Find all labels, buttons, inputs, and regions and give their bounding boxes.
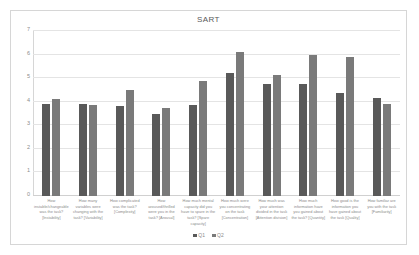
bar-group <box>70 31 107 196</box>
y-axis-tick-label: 4 <box>27 98 30 104</box>
bar-series-container <box>33 31 400 196</box>
bar-q1[interactable] <box>152 114 160 197</box>
x-axis-category-label: How familiar are you with the task [Fami… <box>363 198 400 226</box>
x-axis-category-label: How instable/changeable was the task? [I… <box>33 198 70 226</box>
y-axis-tick-label: 5 <box>27 74 30 80</box>
bar-q2[interactable] <box>162 108 170 196</box>
x-axis-category-label: How much information have you gained abo… <box>290 198 327 226</box>
bar-q2[interactable] <box>126 90 134 196</box>
bar-group <box>106 31 143 196</box>
bar-q2[interactable] <box>309 55 317 196</box>
bar-q1[interactable] <box>336 93 344 196</box>
x-axis-category-label: How many variables were changing with th… <box>70 198 107 226</box>
bar-q1[interactable] <box>373 98 381 196</box>
bar-q2[interactable] <box>346 57 354 196</box>
bar-q2[interactable] <box>52 99 60 196</box>
bar-group <box>363 31 400 196</box>
bar-q1[interactable] <box>226 73 234 196</box>
y-axis-tick-label: 2 <box>27 145 30 151</box>
bar-q1[interactable] <box>79 104 87 196</box>
bar-q1[interactable] <box>299 84 307 196</box>
legend-label: Q1 <box>198 233 205 238</box>
bar-group <box>217 31 254 196</box>
x-axis-category-label: How much was your attention divided in t… <box>253 198 290 226</box>
plot-area: 01234567 <box>33 31 400 196</box>
y-axis-tick-label: 1 <box>27 169 30 175</box>
bar-q2[interactable] <box>199 81 207 197</box>
y-axis-tick-label: 7 <box>27 27 30 33</box>
bar-q1[interactable] <box>189 105 197 196</box>
bar-q1[interactable] <box>263 84 271 196</box>
bar-group <box>290 31 327 196</box>
legend-item-q1[interactable]: Q1 <box>193 233 205 238</box>
y-axis-tick-label: 0 <box>27 192 30 198</box>
bar-q2[interactable] <box>236 52 244 196</box>
y-axis-tick-label: 3 <box>27 122 30 128</box>
bar-group <box>33 31 70 196</box>
chart-container: SART 01234567 How instable/changeable wa… <box>10 10 407 245</box>
legend-swatch <box>212 234 216 238</box>
legend-label: Q2 <box>217 233 224 238</box>
bar-group <box>143 31 180 196</box>
bar-q1[interactable] <box>42 104 50 196</box>
bar-q2[interactable] <box>89 105 97 196</box>
legend-swatch <box>193 234 197 238</box>
x-axis-category-label: How complicated was the task? [Complexit… <box>106 198 143 226</box>
chart-legend: Q1Q2 <box>11 233 406 238</box>
x-axis-category-label: How aroused/thrilled were you in the tas… <box>143 198 180 226</box>
x-axis-category-labels: How instable/changeable was the task? [I… <box>33 198 400 226</box>
bar-q1[interactable] <box>116 106 124 196</box>
bar-q2[interactable] <box>383 104 391 196</box>
chart-title: SART <box>11 15 406 24</box>
bar-q2[interactable] <box>273 75 281 196</box>
x-axis-category-label: How much mental capacity did you have to… <box>180 198 217 226</box>
legend-item-q2[interactable]: Q2 <box>212 233 224 238</box>
bar-group <box>253 31 290 196</box>
y-axis-tick-label: 6 <box>27 51 30 57</box>
bar-group <box>327 31 364 196</box>
x-axis-category-label: How much were you concentrating on the t… <box>217 198 254 226</box>
bar-group <box>180 31 217 196</box>
x-axis-category-label: How good is the information you have gai… <box>327 198 364 226</box>
